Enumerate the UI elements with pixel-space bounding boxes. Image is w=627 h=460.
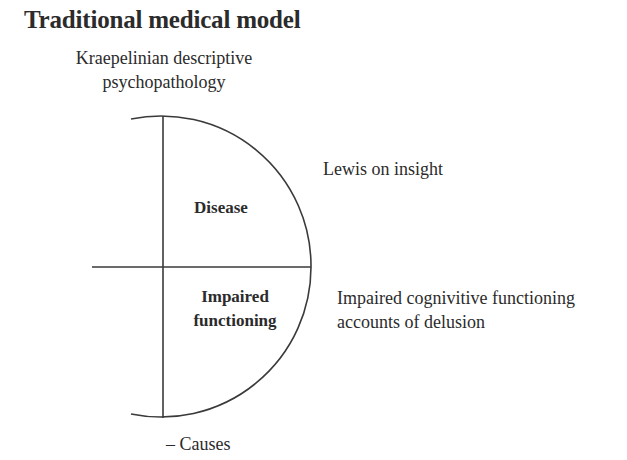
bottom-axis-label-causes: – Causes bbox=[166, 434, 231, 455]
half-circle-quadrant-diagram bbox=[0, 0, 627, 460]
quadrant-label-impaired-line1: Impaired bbox=[176, 285, 294, 309]
right-label-cognitive-line2: accounts of delusion bbox=[337, 310, 575, 334]
right-label-lewis-on-insight: Lewis on insight bbox=[323, 157, 443, 181]
quadrant-label-disease: Disease bbox=[176, 196, 266, 220]
right-label-cognitive-accounts: Impaired cognivitive functioning account… bbox=[337, 286, 575, 334]
quadrant-label-impaired-functioning: Impaired functioning bbox=[176, 285, 294, 333]
right-label-cognitive-line1: Impaired cognivitive functioning bbox=[337, 286, 575, 310]
quadrant-label-impaired-line2: functioning bbox=[176, 309, 294, 333]
